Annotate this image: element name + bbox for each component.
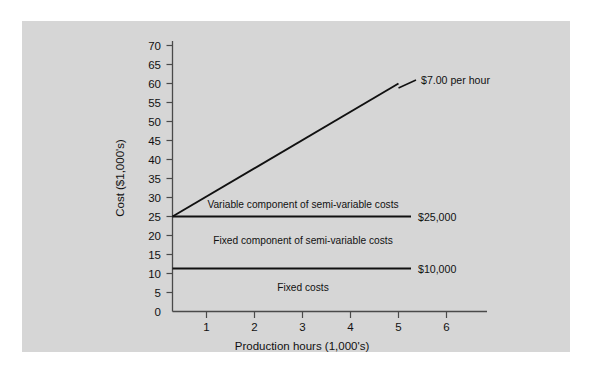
y-tick-label-5: 5 [155,287,161,299]
annotation-fixed-component-band: Fixed component of semi-variable costs [213,235,393,246]
y-tick-label-0: 0 [155,306,161,318]
y-tick-label-65: 65 [148,59,161,71]
y-axis-tick-labels: 70 65 60 55 50 45 40 35 30 25 20 15 10 5… [148,40,161,318]
y-tick-label-15: 15 [148,249,161,261]
y-tick-label-70: 70 [148,40,161,52]
y-tick-label-50: 50 [148,116,161,128]
y-tick-label-45: 45 [148,135,161,147]
x-axis-ticks [207,312,447,319]
annotation-value-10000: $10,000 [418,263,456,275]
x-tick-label-2: 2 [251,321,257,333]
annotation-fixed-costs-band: Fixed costs [277,282,329,293]
series-line-total-semi-variable [173,84,399,217]
annotation-slope-per-hour: $7.00 per hour [421,74,490,86]
y-tick-label-20: 20 [148,230,161,242]
y-tick-label-30: 30 [148,192,161,204]
x-tick-label-4: 4 [347,321,354,333]
x-tick-label-3: 3 [299,321,305,333]
x-tick-label-1: 1 [203,321,209,333]
y-tick-label-25: 25 [148,211,161,223]
slope-callout-leader-line [399,80,417,88]
annotation-variable-component-band: Variable component of semi-variable cost… [207,199,398,210]
figure-container: 70 65 60 55 50 45 40 35 30 25 20 15 10 5… [0,0,596,374]
y-tick-label-10: 10 [148,268,161,280]
annotation-value-25000: $25,000 [418,211,456,223]
x-tick-label-6: 6 [443,321,449,333]
x-axis-title: Production hours (1,000's) [235,340,370,352]
y-tick-label-60: 60 [148,78,161,90]
y-axis-ticks [167,46,173,293]
y-tick-label-40: 40 [148,154,161,166]
cost-behaviour-chart: 70 65 60 55 50 45 40 35 30 25 20 15 10 5… [0,0,596,374]
x-tick-label-5: 5 [395,321,401,333]
y-axis-title: Cost ($1,000's) [114,139,126,217]
y-tick-label-35: 35 [148,173,161,185]
x-axis-tick-labels: 1 2 3 4 5 6 [203,321,449,333]
y-tick-label-55: 55 [148,97,161,109]
